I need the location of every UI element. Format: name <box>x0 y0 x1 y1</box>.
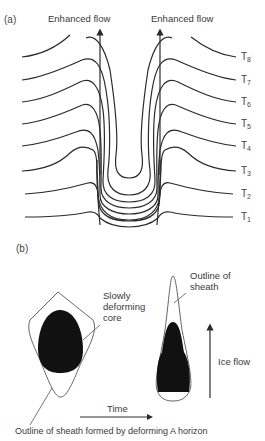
panel-b-label: (b) <box>16 243 28 254</box>
sheath-label: Outline of sheath <box>190 270 231 292</box>
time-label-t5: T5 <box>241 118 251 130</box>
time-label-t2: T2 <box>241 188 251 200</box>
caption-leader-line <box>30 388 52 425</box>
horizon-t8-right <box>191 37 236 57</box>
core-label: Slowly deforming core <box>103 290 145 323</box>
time-label-t7: T7 <box>241 74 251 86</box>
panel-a-drawing <box>22 32 236 227</box>
panel-a-label: (a) <box>4 14 16 25</box>
horizon-t5-left <box>22 104 100 130</box>
diagram-canvas <box>0 0 265 441</box>
horizon-t6-fold <box>103 110 155 202</box>
enhanced-flow-label-right: Enhanced flow <box>151 13 213 24</box>
caption-label: Outline of sheath formed by deforming A … <box>15 426 208 437</box>
sheath-leader-line <box>174 293 186 303</box>
time-label-t4: T4 <box>241 140 251 152</box>
horizon-t3-right <box>161 147 236 171</box>
horizon-t7-fold <box>106 90 152 195</box>
horizon-t2-right <box>160 183 233 195</box>
time-label-t8: T8 <box>241 51 251 63</box>
enhanced-flow-label-left: Enhanced flow <box>48 13 110 24</box>
horizon-t2-left <box>25 183 98 195</box>
horizon-t3-left <box>22 147 97 171</box>
time-label-t3: T3 <box>241 165 251 177</box>
horizon-t8-left <box>22 35 70 57</box>
horizon-t7-right <box>152 59 236 90</box>
ice-flow-label: Ice flow <box>218 356 250 367</box>
right-core <box>157 322 190 392</box>
horizon-t4-fold <box>98 150 160 214</box>
left-core <box>38 310 83 373</box>
horizon-t5-right <box>158 104 236 130</box>
horizon-t7-left <box>22 59 106 90</box>
horizon-t1-fold <box>100 218 158 227</box>
time-label: Time <box>107 403 128 414</box>
time-label-t1: T1 <box>241 211 251 223</box>
horizon-t1-right <box>158 212 233 218</box>
horizon-t1-left <box>25 212 100 218</box>
core-leader-line <box>83 325 100 340</box>
time-label-t6: T6 <box>241 96 251 108</box>
